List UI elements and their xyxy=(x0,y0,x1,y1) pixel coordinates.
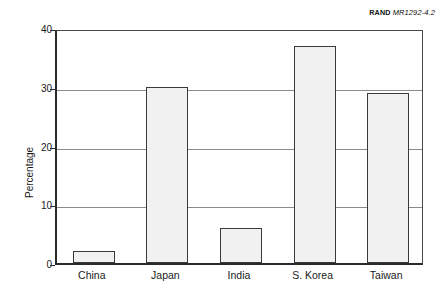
y-axis-tick-label: 40 xyxy=(12,25,52,35)
y-axis-tick-label: 30 xyxy=(12,84,52,94)
bar-japan xyxy=(146,87,188,263)
plot-area xyxy=(55,30,423,265)
bar-china xyxy=(73,251,115,263)
y-axis-tick-mark xyxy=(50,265,55,266)
y-axis-tick-label: 10 xyxy=(12,201,52,211)
bar-taiwan xyxy=(367,93,409,263)
y-axis-tick-mark xyxy=(50,89,55,90)
y-axis-title: Percentage xyxy=(13,108,27,198)
bar-india xyxy=(220,228,262,263)
y-axis-tick-mark xyxy=(50,206,55,207)
x-axis-tick-label: Taiwan xyxy=(336,270,436,281)
bar-chart-figure: RANDMR1292-4.2 Percentage 010203040China… xyxy=(0,0,444,299)
y-axis-tick-label: 0 xyxy=(12,260,52,270)
rand-logo-text: RAND xyxy=(369,8,391,17)
y-axis-tick-mark xyxy=(50,30,55,31)
rand-credit-line: RANDMR1292-4.2 xyxy=(369,8,435,17)
y-axis-tick-label: 20 xyxy=(12,143,52,153)
rand-document-number: MR1292-4.2 xyxy=(393,8,435,17)
gridline xyxy=(57,90,422,91)
y-axis-title-text: Percentage xyxy=(25,147,35,198)
y-axis-tick-mark xyxy=(50,148,55,149)
bar-s-korea xyxy=(294,46,336,263)
